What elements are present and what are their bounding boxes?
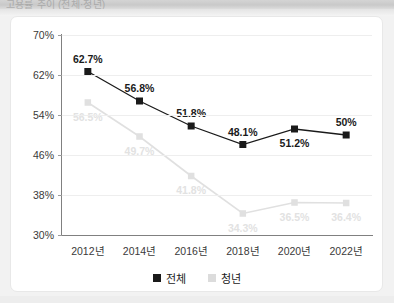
data-label: 62.7% bbox=[73, 54, 103, 65]
legend-label-total: 전체 bbox=[166, 270, 186, 286]
data-point-marker[interactable] bbox=[343, 200, 350, 207]
series-line-total bbox=[84, 68, 349, 148]
data-point-marker[interactable] bbox=[240, 210, 247, 217]
gridline bbox=[62, 35, 372, 36]
legend-item-total[interactable]: 전체 bbox=[153, 270, 186, 286]
series-line-youth bbox=[85, 99, 350, 217]
data-label: 36.4% bbox=[331, 212, 361, 223]
data-label: 51.2% bbox=[280, 138, 310, 149]
x-axis-label: 2014년 bbox=[123, 243, 156, 258]
y-axis-tick bbox=[58, 115, 62, 116]
gridline bbox=[62, 155, 372, 156]
data-point-marker[interactable] bbox=[291, 199, 298, 206]
data-label: 56.8% bbox=[125, 83, 155, 94]
x-axis-label: 2016년 bbox=[174, 243, 207, 258]
legend-label-youth: 청년 bbox=[221, 270, 241, 286]
y-axis-tick bbox=[58, 195, 62, 196]
bottom-edge bbox=[0, 296, 394, 303]
y-axis-tick bbox=[58, 75, 62, 76]
data-point-marker[interactable] bbox=[136, 133, 143, 140]
legend-swatch-total bbox=[153, 274, 161, 282]
chart-legend: 전체 청년 bbox=[0, 270, 394, 286]
data-point-marker[interactable] bbox=[188, 173, 195, 180]
data-point-marker[interactable] bbox=[291, 126, 298, 133]
data-point-marker[interactable] bbox=[136, 98, 143, 105]
data-label: 51.8% bbox=[176, 108, 206, 119]
series-path bbox=[88, 103, 346, 214]
x-axis-label: 2020년 bbox=[278, 243, 311, 258]
x-axis-label: 2012년 bbox=[71, 243, 104, 258]
data-point-marker[interactable] bbox=[239, 141, 246, 148]
x-axis-label: 2022년 bbox=[329, 243, 362, 258]
x-axis-label: 2018년 bbox=[226, 243, 259, 258]
y-axis-tick bbox=[58, 235, 62, 236]
data-label: 36.5% bbox=[280, 212, 310, 223]
data-label: 48.1% bbox=[228, 127, 258, 138]
gridline bbox=[62, 115, 372, 116]
y-axis-tick bbox=[58, 155, 62, 156]
data-label: 56.5% bbox=[73, 112, 103, 123]
legend-swatch-youth bbox=[208, 274, 216, 282]
gridline bbox=[62, 75, 372, 76]
data-point-marker[interactable] bbox=[188, 123, 195, 130]
data-point-marker[interactable] bbox=[84, 68, 91, 75]
data-label: 34.3% bbox=[228, 223, 258, 234]
data-point-marker[interactable] bbox=[343, 132, 350, 139]
data-point-marker[interactable] bbox=[85, 99, 92, 106]
gridline bbox=[62, 195, 372, 196]
legend-item-youth[interactable]: 청년 bbox=[208, 270, 241, 286]
data-label: 41.8% bbox=[176, 185, 206, 196]
y-axis-tick bbox=[58, 35, 62, 36]
chart-screenshot: 고용률 추이 (전체·청년) 70%62%54%46%38%30% 2012년2… bbox=[0, 0, 394, 303]
data-label: 50% bbox=[336, 117, 357, 128]
